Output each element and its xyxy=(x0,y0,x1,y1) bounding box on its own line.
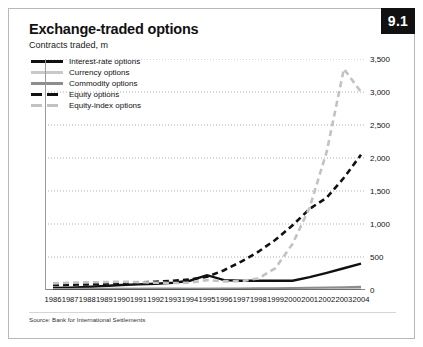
series-line-equity-index xyxy=(53,69,361,284)
x-tick-label: 1996 xyxy=(216,295,233,304)
x-tick-label: 1989 xyxy=(96,295,113,304)
x-tick-label: 1998 xyxy=(250,295,267,304)
x-tick-label: 1999 xyxy=(267,295,284,304)
y-tick-label: 1,500 xyxy=(370,187,390,196)
y-tick-label: 3,000 xyxy=(370,88,390,97)
x-tick-label: 1995 xyxy=(199,295,216,304)
y-axis-labels: 05001,0001,5002,0002,5003,0003,500 xyxy=(367,59,413,290)
x-tick-label: 1997 xyxy=(233,295,250,304)
source-divider xyxy=(29,312,396,313)
x-tick-label: 1994 xyxy=(181,295,198,304)
x-axis-labels: 1986198719881989199019911992199319941995… xyxy=(45,295,365,307)
chart-svg xyxy=(45,59,365,290)
y-tick-label: 0 xyxy=(370,286,374,295)
y-tick-label: 2,000 xyxy=(370,154,390,163)
source-note: Source: Bank for International Settlemen… xyxy=(29,316,145,323)
x-tick-label: 2000 xyxy=(284,295,301,304)
x-tick-label: 1990 xyxy=(113,295,130,304)
x-tick-label: 2003 xyxy=(335,295,352,304)
x-tick-label: 1993 xyxy=(164,295,181,304)
chart-plot-area xyxy=(45,59,365,290)
x-tick-label: 2004 xyxy=(353,295,370,304)
y-tick-label: 2,500 xyxy=(370,121,390,130)
chart-card: 9.1 Exchange-traded options Contracts tr… xyxy=(8,8,415,339)
x-tick-label: 1992 xyxy=(147,295,164,304)
chart-title: Exchange-traded options xyxy=(29,21,198,37)
x-tick-label: 2001 xyxy=(301,295,318,304)
y-tick-label: 3,500 xyxy=(370,55,390,64)
y-tick-label: 500 xyxy=(370,253,383,262)
figure-number-badge: 9.1 xyxy=(381,8,415,34)
series-line-equity xyxy=(53,155,361,285)
x-tick-label: 1991 xyxy=(130,295,147,304)
x-tick-label: 1986 xyxy=(45,295,62,304)
x-tick-label: 1988 xyxy=(79,295,96,304)
chart-subtitle: Contracts traded, m xyxy=(29,40,108,50)
y-tick-label: 1,000 xyxy=(370,220,390,229)
x-tick-label: 2002 xyxy=(318,295,335,304)
x-tick-label: 1987 xyxy=(62,295,79,304)
